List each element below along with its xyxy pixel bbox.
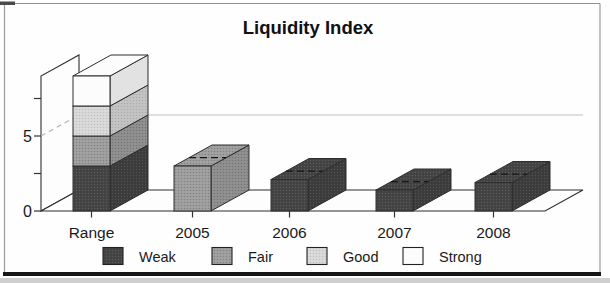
category-label-range: Range bbox=[69, 224, 115, 241]
legend-label-weak: Weak bbox=[139, 249, 177, 265]
category-label-2008: 2008 bbox=[476, 224, 510, 241]
legend-swatch-strong bbox=[403, 248, 423, 265]
front-face-weak bbox=[271, 180, 308, 212]
front-face-weak bbox=[73, 166, 110, 211]
category-label-2005: 2005 bbox=[175, 224, 209, 241]
legend-swatch-good bbox=[307, 248, 327, 265]
scan-smudge bbox=[0, 2, 15, 6]
legend-label-good: Good bbox=[343, 249, 378, 265]
category-label-2006: 2006 bbox=[272, 224, 306, 241]
front-face-strong bbox=[73, 76, 110, 106]
legend-label-strong: Strong bbox=[439, 249, 482, 265]
bar-range bbox=[73, 55, 148, 211]
scan-strip bbox=[0, 278, 610, 283]
y-tick-label-0: 0 bbox=[23, 203, 32, 220]
legend-swatch-weak bbox=[103, 248, 123, 265]
legend-swatch-fair bbox=[212, 248, 232, 265]
front-face-weak bbox=[376, 190, 413, 211]
y-tick-label-5: 5 bbox=[23, 128, 32, 145]
front-face-good bbox=[73, 106, 110, 136]
chart-title: Liquidity Index bbox=[243, 17, 374, 38]
front-face-fair bbox=[174, 166, 211, 211]
category-label-2007: 2007 bbox=[377, 224, 411, 241]
front-face-weak bbox=[475, 183, 512, 212]
scanned-figure: 05Range2005200620072008 Liquidity Index … bbox=[0, 0, 610, 283]
front-face-fair bbox=[73, 136, 110, 166]
legend-label-fair: Fair bbox=[248, 249, 273, 265]
